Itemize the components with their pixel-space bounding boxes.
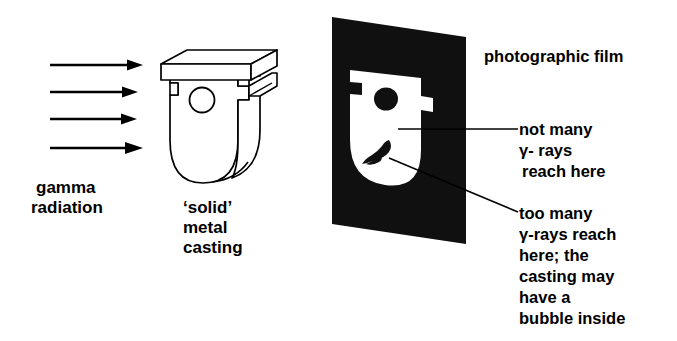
annotation-high-line1: too many (519, 204, 593, 222)
annotation-high-exposure: too many γ-rays reach here; the casting … (519, 204, 625, 327)
annotation-high-line3: here; the (519, 246, 589, 264)
annotation-low-line3: reach here (522, 162, 605, 180)
photographic-film-label: photographic film (484, 47, 623, 65)
gamma-beam-group (50, 60, 143, 155)
annotation-high-line4: casting may (519, 267, 615, 285)
casting-caption-line3: casting (183, 238, 243, 257)
casting-flange-front-face (161, 64, 251, 80)
casting-left-notch (170, 83, 178, 95)
gamma-radiation-label-line2: radiation (31, 198, 103, 217)
gamma-radiography-diagram: gamma radiation ‘solid’ me (0, 0, 677, 341)
gamma-arrow-3 (50, 114, 137, 125)
film-hole-spot (374, 88, 398, 111)
casting-through-hole (190, 88, 215, 113)
annotation-high-line2: γ-rays reach (519, 225, 616, 243)
annotation-low-exposure: not many γ- rays reach here (519, 120, 605, 180)
photographic-film-group (332, 17, 466, 244)
gamma-arrow-4 (50, 142, 143, 154)
annotation-high-line6: bubble inside (519, 309, 625, 327)
metal-casting-drawing (161, 50, 277, 183)
gamma-arrow-1 (50, 60, 143, 71)
figure-root: gamma radiation ‘solid’ me (0, 0, 677, 341)
annotation-low-line2: γ- rays (519, 141, 572, 159)
casting-caption-line2: metal (183, 218, 227, 237)
gamma-radiation-label-line1: gamma (36, 178, 96, 197)
annotation-high-line5: have a (519, 288, 571, 306)
gamma-arrow-2 (50, 87, 138, 98)
annotation-low-line1: not many (519, 120, 593, 138)
casting-caption-line1: ‘solid’ (183, 198, 232, 217)
